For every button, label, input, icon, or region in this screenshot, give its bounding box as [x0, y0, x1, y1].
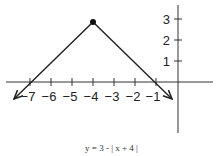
svg-text:−4: −4	[84, 89, 99, 104]
svg-text:−2: −2	[126, 89, 141, 104]
equation-caption: y = 3 - | x + 4 |	[0, 143, 223, 153]
svg-text:−1: −1	[146, 89, 161, 104]
svg-text:3: 3	[163, 12, 170, 27]
graph: −7 −6 −5 −4 −3 −2 −1 3 2 1	[0, 0, 223, 156]
y-tick-labels: 3 2 1	[163, 12, 170, 69]
svg-text:−3: −3	[105, 89, 120, 104]
svg-text:−6: −6	[42, 89, 57, 104]
function-line	[14, 22, 172, 99]
vertex-point	[90, 19, 96, 25]
x-tick-labels: −7 −6 −5 −4 −3 −2 −1	[21, 89, 161, 104]
svg-text:2: 2	[163, 33, 170, 48]
svg-text:−5: −5	[63, 89, 78, 104]
svg-text:1: 1	[163, 54, 170, 69]
